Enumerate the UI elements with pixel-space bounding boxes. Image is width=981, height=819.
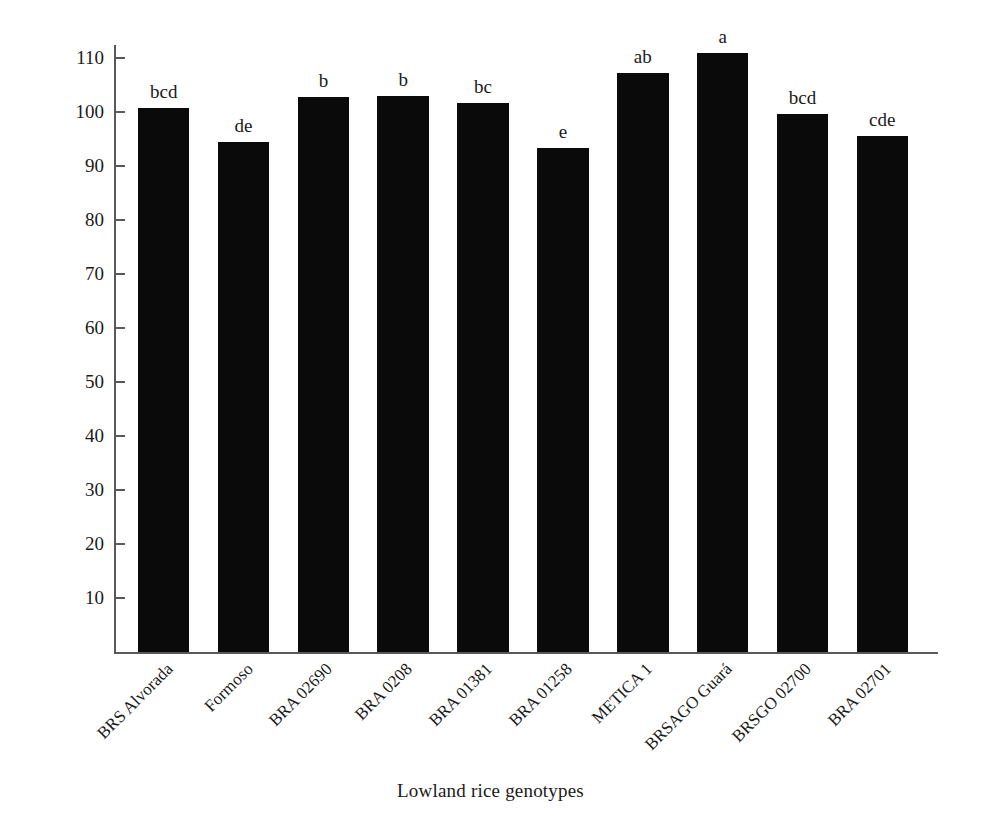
x-axis-line xyxy=(114,652,938,654)
y-tick-label: 10 xyxy=(52,588,104,607)
y-tick-label: 40 xyxy=(52,426,104,445)
y-tick-label: 80 xyxy=(52,210,104,229)
bar-group[interactable]: b xyxy=(377,45,429,652)
bar-group[interactable]: bcd xyxy=(777,45,829,652)
bar[interactable] xyxy=(537,148,589,652)
bar[interactable] xyxy=(218,142,270,652)
bar[interactable] xyxy=(298,97,350,652)
bar-group[interactable]: e xyxy=(537,45,589,652)
bar-significance-label: ab xyxy=(617,47,669,67)
bar-group[interactable]: bc xyxy=(457,45,509,652)
bar-significance-label: cde xyxy=(857,110,909,130)
y-tick-label: 70 xyxy=(52,264,104,283)
bar-significance-label: a xyxy=(697,27,749,47)
bar[interactable] xyxy=(138,108,190,652)
bar-group[interactable]: cde xyxy=(857,45,909,652)
y-tick-label: 60 xyxy=(52,318,104,337)
y-tick-label: 50 xyxy=(52,372,104,391)
bar-group[interactable]: ab xyxy=(617,45,669,652)
bar-significance-label: b xyxy=(377,70,429,90)
y-tick-label: 20 xyxy=(52,534,104,553)
bar-significance-label: de xyxy=(218,116,270,136)
bar-significance-label: b xyxy=(298,71,350,91)
bar-significance-label: bcd xyxy=(777,88,829,108)
bar-significance-label: bcd xyxy=(138,82,190,102)
bar[interactable] xyxy=(617,73,669,652)
bar[interactable] xyxy=(377,96,429,652)
bar-group[interactable]: de xyxy=(218,45,270,652)
y-tick-label: 100 xyxy=(52,102,104,121)
y-tick-label: 110 xyxy=(52,48,104,67)
bar-group[interactable]: bcd xyxy=(138,45,190,652)
bar[interactable] xyxy=(457,103,509,652)
bar-significance-label: bc xyxy=(457,77,509,97)
bar-group[interactable]: a xyxy=(697,45,749,652)
plot-area: bcddebbbceababcdcde xyxy=(114,45,938,652)
bar-significance-label: e xyxy=(537,122,589,142)
bar-chart-figure: Plant height (cm) Lowland rice genotypes… xyxy=(0,0,981,819)
bar[interactable] xyxy=(857,136,909,652)
y-tick-label: 90 xyxy=(52,156,104,175)
bar[interactable] xyxy=(777,114,829,652)
x-axis-title: Lowland rice genotypes xyxy=(0,780,981,802)
bar[interactable] xyxy=(697,53,749,652)
bar-group[interactable]: b xyxy=(298,45,350,652)
y-tick-label: 30 xyxy=(52,480,104,499)
